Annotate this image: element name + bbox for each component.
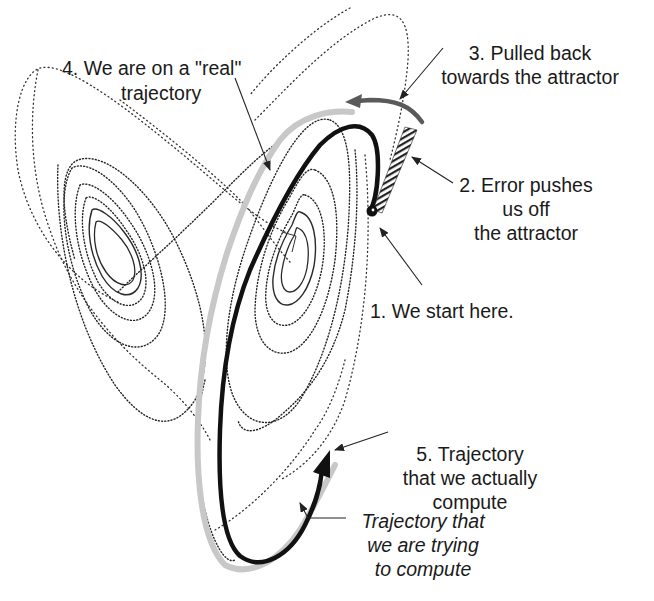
pointer-step2 xyxy=(412,157,453,183)
label-step2-line1: 2. Error pushes xyxy=(459,174,593,196)
label-step3: 3. Pulled back towards the attractor xyxy=(441,42,619,88)
lower-right-orbit-2 xyxy=(215,360,345,530)
lower-right-orbit xyxy=(280,155,368,480)
pointer-target xyxy=(300,503,346,518)
pointer-step3 xyxy=(400,48,443,99)
lorenz-shadowing-diagram: 4. We are on a "real" trajectory 3. Pull… xyxy=(0,0,654,601)
label-step5: 5. Trajectory that we actually compute xyxy=(403,443,538,513)
right-small-bracket xyxy=(282,232,296,252)
right-loop-outer xyxy=(226,119,349,422)
left-loop-inner-2 xyxy=(94,221,134,285)
left-loop-1 xyxy=(64,166,165,347)
label-step4-line2: trajectory xyxy=(121,82,201,104)
label-target-line1: Trajectory that xyxy=(361,510,486,532)
label-target-trajectory: Trajectory that we are trying to compute xyxy=(361,510,486,580)
label-target-line3: to compute xyxy=(375,558,472,580)
label-step3-line1: 3. Pulled back xyxy=(469,42,592,64)
label-step1: 1. We start here. xyxy=(370,300,514,322)
computed-trajectory-arrowhead xyxy=(313,450,330,478)
label-target-line2: we are trying xyxy=(367,534,479,556)
label-step4: 4. We are on a "real" trajectory xyxy=(62,57,241,104)
label-step1-line1: 1. We start here. xyxy=(370,300,514,322)
start-point-dot xyxy=(367,206,378,217)
right-wing-edge xyxy=(250,8,350,95)
label-step3-line2: towards the attractor xyxy=(441,66,619,88)
right-loop-2 xyxy=(255,169,337,353)
label-step4-line1: 4. We are on a "real" xyxy=(62,57,241,79)
pointer-step4 xyxy=(235,78,270,170)
label-step5-line1: 5. Trajectory xyxy=(416,443,524,465)
label-step5-line2: that we actually xyxy=(403,467,538,489)
label-step2-line3: the attractor xyxy=(474,222,579,244)
pointer-step1 xyxy=(380,228,422,285)
pull-back-arrow-path xyxy=(357,100,422,122)
pull-back-arrowhead xyxy=(345,94,362,108)
label-step2: 2. Error pushes us off the attractor xyxy=(459,174,593,244)
pointer-step5 xyxy=(335,432,388,450)
left-wing-outer-orbit-2 xyxy=(32,70,210,440)
left-wing-lower-orbit xyxy=(58,158,206,421)
attractor-orbits xyxy=(15,8,408,561)
computed-trajectory-path xyxy=(220,126,378,562)
start-point-center xyxy=(372,209,375,212)
label-step2-line2: us off xyxy=(502,198,550,220)
